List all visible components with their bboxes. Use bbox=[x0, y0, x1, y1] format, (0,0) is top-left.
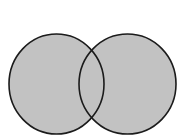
venn-diagram-figure: OR bbox=[0, 0, 184, 139]
venn-diagram-canvas bbox=[0, 0, 184, 139]
